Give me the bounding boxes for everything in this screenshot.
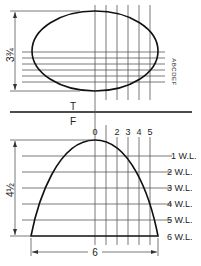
top-view: 3¾ ABCDEF T <box>5 5 177 112</box>
station-label-5: 5 <box>147 127 152 137</box>
station-label-2: 2 <box>114 127 119 137</box>
section-letters: ABCDEF <box>171 58 177 85</box>
front-view: F 0 2 3 4 5 1 W.L. 2 W.L. 3 W.L. 4 W.L. <box>5 100 197 258</box>
top-view-label: T <box>70 101 76 112</box>
egg-projection-drawing: 3¾ ABCDEF T F 0 2 3 4 5 1 <box>0 0 201 266</box>
station-lines-vertical-top <box>95 5 150 100</box>
station-label-3: 3 <box>125 127 130 137</box>
waterline-label-4: 4 W.L. <box>167 199 193 209</box>
top-height-label: 3¾ <box>5 47 16 62</box>
front-height-label: 4½ <box>5 182 16 197</box>
front-width-label: 6 <box>92 247 98 258</box>
waterline-label-6: 6 W.L. <box>167 232 193 242</box>
waterline-label-1: 1 W.L. <box>171 151 197 161</box>
waterline-label-3: 3 W.L. <box>167 183 193 193</box>
waterline-label-2: 2 W.L. <box>167 167 193 177</box>
height-dimension-top <box>10 11 80 91</box>
station-label-4: 4 <box>136 127 141 137</box>
front-view-label: F <box>70 116 76 127</box>
station-lines-vertical-front <box>95 100 150 245</box>
waterline-label-5: 5 W.L. <box>167 215 193 225</box>
